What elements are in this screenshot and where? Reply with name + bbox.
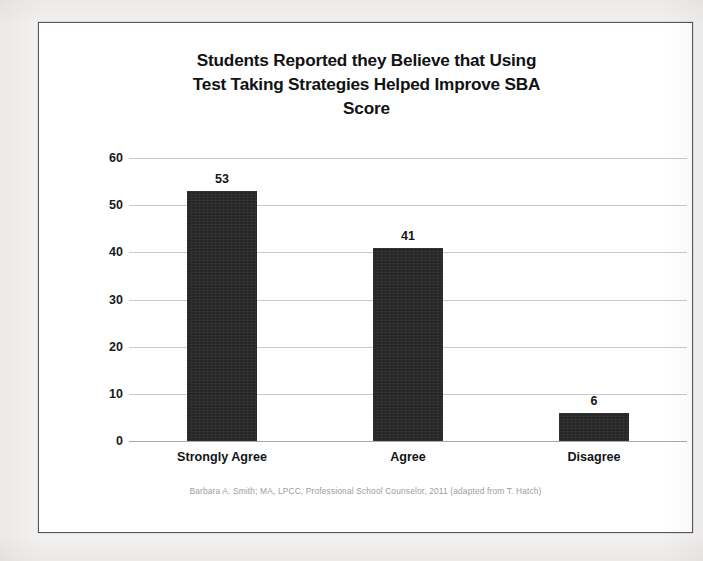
bar [373,248,443,441]
chart-plot-wrapper: 0102030405060 53416 Strongly AgreeAgreeD… [91,158,687,463]
bar [187,191,257,441]
bar-slot: 6 [559,158,629,441]
y-axis-tick-label: 10 [109,387,123,401]
chart-title-line-2: Test Taking Strategies Helped Improve SB… [99,72,634,96]
bar-value-label: 6 [559,394,629,408]
chart-credit-footer: Barbara A. Smith; MA, LPCC, Professional… [39,486,692,496]
bar-value-label: 41 [373,229,443,243]
x-axis-tick-label: Strongly Agree [177,450,267,464]
y-axis: 0102030405060 [91,158,129,441]
plot-area: 53416 [129,158,687,441]
x-axis-tick-label: Agree [390,450,426,464]
bar-slot: 41 [373,158,443,441]
y-axis-tick-label: 50 [109,198,123,212]
x-axis-tick-label: Disagree [567,450,620,464]
bar-slot: 53 [187,158,257,441]
chart-title-line-3: Score [99,96,634,120]
chart-title: Students Reported they Believe that Usin… [99,48,634,120]
bars-layer: 53416 [129,158,687,441]
y-axis-tick-label: 0 [116,434,123,448]
bar [559,413,629,441]
y-axis-tick-label: 60 [109,151,123,165]
y-axis-tick-label: 20 [109,340,123,354]
bar-value-label: 53 [187,172,257,186]
x-axis: Strongly AgreeAgreeDisagree [129,450,687,474]
axis-baseline [129,441,687,442]
chart-card: Students Reported they Believe that Usin… [38,22,693,533]
chart-title-line-1: Students Reported they Believe that Usin… [99,48,634,72]
y-axis-tick-label: 30 [109,293,123,307]
y-axis-tick-label: 40 [109,245,123,259]
